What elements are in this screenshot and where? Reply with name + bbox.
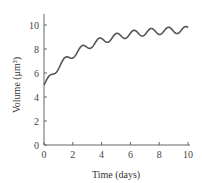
x-tick-label: 4 (99, 149, 104, 160)
x-tick-label: 6 (128, 149, 133, 160)
y-tick-label: 4 (34, 92, 39, 103)
chart: 02468100246810 Time (days) Volume (μm³) (0, 0, 202, 183)
x-tick-label: 10 (183, 149, 193, 160)
x-tick-label: 0 (42, 149, 47, 160)
x-axis-label: Time (days) (92, 169, 140, 181)
y-axis-label: Volume (μm³) (11, 57, 23, 113)
y-tick-label: 10 (29, 20, 39, 31)
x-tick-label: 8 (157, 149, 162, 160)
volume-line (44, 27, 188, 85)
x-tick-label: 2 (70, 149, 75, 160)
y-tick-label: 8 (34, 44, 39, 55)
plot-area: 02468100246810 (29, 14, 193, 160)
y-tick-label: 6 (34, 68, 39, 79)
y-tick-label: 2 (34, 116, 39, 127)
y-tick-label: 0 (34, 140, 39, 151)
